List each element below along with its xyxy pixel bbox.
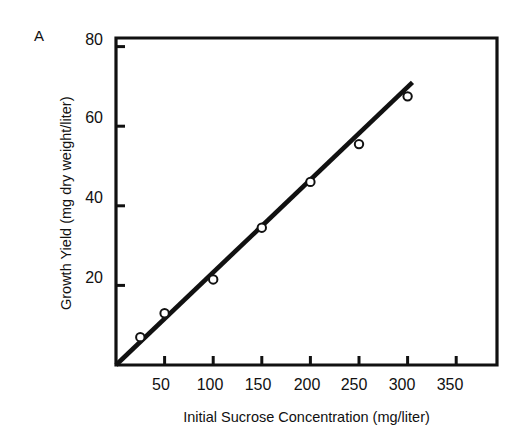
data-point-3 — [258, 223, 266, 231]
data-point-6 — [403, 92, 411, 100]
data-point-4 — [306, 178, 314, 186]
data-point-1 — [160, 309, 168, 317]
data-point-0 — [136, 333, 144, 341]
data-point-2 — [209, 275, 217, 283]
figure-panel-a: A Growth Yield (mg dry weight/liter) Ini… — [0, 0, 531, 445]
plot-canvas — [0, 0, 531, 445]
data-point-5 — [355, 140, 363, 148]
axis-frame — [116, 38, 497, 365]
